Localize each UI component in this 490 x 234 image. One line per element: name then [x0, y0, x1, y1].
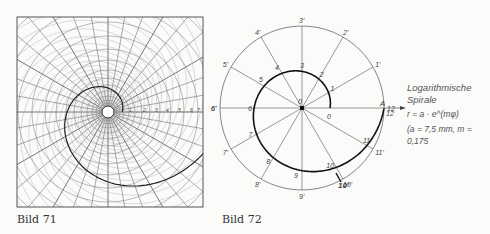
outer-angle-label: 5' [223, 61, 229, 68]
scale-label: 2 [142, 107, 146, 113]
scale-label: 1 [129, 107, 132, 113]
spiral-point-label: 4 [275, 64, 279, 71]
bold-10-label: 10' [338, 181, 350, 190]
outer-angle-label: 4' [255, 29, 261, 36]
spiral-point-label: 1 [331, 85, 335, 92]
spiral-point-label: 6 [248, 105, 252, 112]
outer-angle-label: 2' [342, 29, 349, 36]
scale-label: 3 [155, 107, 158, 113]
note-formula: r = a · e^(mφ) [407, 108, 490, 120]
note-title-line1: Logarithmische [407, 82, 490, 94]
spiral-description: Logarithmische Spirale r = a · e^(mφ) (a… [407, 82, 490, 147]
outer-angle-label: 11' [375, 149, 384, 156]
scale-label: 4 [166, 107, 169, 113]
spiral-point-label: 2 [319, 71, 324, 78]
outer-angle-label: 12 [387, 105, 395, 112]
log-spiral-curve [253, 71, 384, 172]
scale-label: 7 [197, 107, 200, 113]
caption-bild-72: Bild 72 [222, 213, 262, 226]
outer-angle-label: 8' [255, 181, 261, 188]
note-title-line2: Spirale [407, 94, 490, 106]
spiral-point-label: 3 [300, 62, 304, 69]
scale-label: 5 [178, 107, 181, 113]
spiral-point-label: 7 [249, 131, 254, 138]
scale-label: 6 [190, 107, 193, 113]
outer-angle-label: 7' [223, 149, 229, 156]
spiral-point-label: 0 [327, 113, 331, 120]
spiral-point-label: 5 [259, 76, 263, 83]
spiral-point-label: 10 [326, 162, 334, 169]
outer-angle-label: 6' [211, 105, 217, 112]
outer-angle-label: 1' [375, 61, 381, 68]
spiral-point-label: 9 [294, 172, 298, 179]
outer-angle-label: 3' [299, 17, 305, 24]
spiral-point-label: 11 [363, 137, 370, 144]
note-params: (a = 7,5 mm, m = 0,175 [407, 123, 490, 147]
caption-bild-71: Bild 71 [17, 213, 57, 226]
point-a-label: A [379, 99, 385, 108]
outer-angle-label: 9' [299, 193, 305, 200]
center-label: 0 [298, 98, 302, 105]
spiral-point-label: 8 [266, 158, 270, 165]
